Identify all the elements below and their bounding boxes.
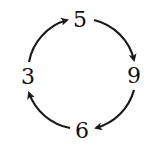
arrow-3-to-5 (29, 20, 67, 62)
node-left: 3 (21, 66, 35, 88)
arrow-9-to-6 (96, 90, 134, 128)
node-right: 9 (127, 65, 141, 87)
arrow-6-to-3 (29, 93, 70, 128)
node-top: 5 (73, 9, 87, 31)
node-bottom: 6 (75, 120, 89, 142)
cycle-diagram: 5 9 6 3 (0, 0, 153, 148)
arrow-5-to-9 (94, 20, 134, 60)
